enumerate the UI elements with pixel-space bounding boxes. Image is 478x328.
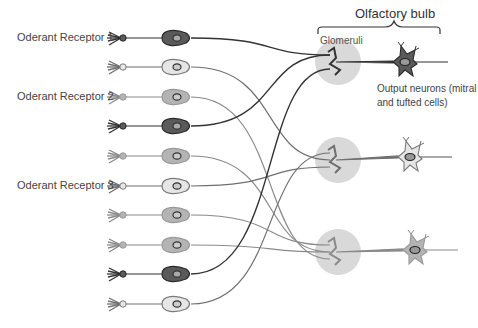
sensory-neurons	[107, 30, 190, 311]
axon	[191, 67, 330, 160]
output-neurons-label: Output neurons (mitral and tufted cells)	[377, 82, 478, 110]
olfactory-diagram	[0, 0, 478, 328]
dendritic-knob	[120, 212, 126, 218]
nucleus	[173, 153, 181, 159]
glomeruli-label: Glomeruli	[320, 35, 363, 46]
dendritic-knob	[120, 301, 126, 307]
dendritic-knob	[120, 94, 126, 100]
nucleus	[173, 301, 181, 307]
axon	[191, 38, 330, 55]
dendritic-knob	[120, 242, 126, 248]
axon	[191, 55, 330, 126]
olfactory-bulb-title: Olfactory bulb	[355, 6, 435, 21]
sensory-neuron	[107, 296, 190, 311]
sensory-axons	[191, 38, 330, 304]
nucleus	[173, 271, 181, 277]
receptor-label-2: Oderant Receptor 2	[17, 90, 114, 102]
nucleus	[173, 242, 181, 248]
sensory-neuron	[107, 30, 190, 45]
nucleus	[173, 183, 181, 189]
output-nucleus	[410, 247, 420, 254]
axon	[191, 215, 330, 245]
receptor-label-3: Oderant Receptor 3	[17, 179, 114, 191]
dendritic-knob	[120, 271, 126, 277]
nucleus	[173, 64, 181, 70]
sensory-neuron	[107, 59, 190, 74]
dendritic-knob	[120, 64, 126, 70]
axon	[191, 167, 330, 186]
axon	[191, 156, 330, 252]
sensory-neuron	[107, 207, 190, 222]
glomeruli-halos	[315, 39, 361, 275]
sensory-neuron	[107, 89, 190, 104]
nucleus	[173, 94, 181, 100]
dendritic-knob	[120, 153, 126, 159]
dendritic-knob	[120, 123, 126, 129]
sensory-neuron	[107, 266, 190, 281]
olfactory-bulb-brace	[318, 21, 440, 34]
sensory-neuron	[107, 148, 190, 163]
nucleus	[173, 212, 181, 218]
nucleus	[173, 123, 181, 129]
axon	[191, 153, 330, 304]
nucleus	[173, 35, 181, 41]
dendritic-knob	[120, 183, 126, 189]
receptor-label-1: Oderant Receptor 1	[17, 31, 114, 43]
sensory-neuron	[107, 118, 190, 133]
dendritic-knob	[120, 35, 126, 41]
primary-dendrite	[336, 61, 393, 63]
sensory-neuron	[107, 178, 190, 193]
axon	[191, 97, 330, 259]
output-nucleus	[400, 59, 410, 66]
output-nucleus	[405, 154, 415, 161]
sensory-neuron	[107, 237, 190, 252]
